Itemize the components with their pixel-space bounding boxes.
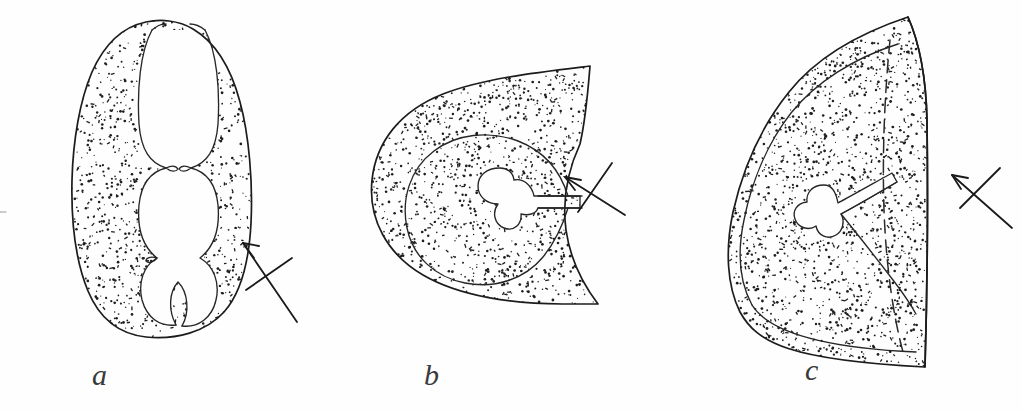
- figure-background: [0, 0, 1022, 411]
- panel-a-label: a: [92, 358, 108, 391]
- figure-svg: a b: [0, 0, 1022, 411]
- panel-b-label: b: [424, 358, 440, 391]
- figure-container: a b: [0, 0, 1022, 411]
- panel-c-label: c: [805, 353, 819, 386]
